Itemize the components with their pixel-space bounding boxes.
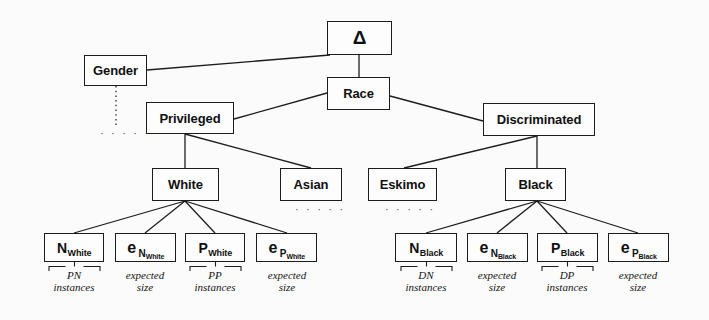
node-discriminated[interactable]: Discriminated [483,103,595,136]
leaf-label-e-n-white: eNWhite [127,240,164,256]
cap-exp-pb-line2: size [593,281,683,293]
leaf-node-e-p-white[interactable]: ePWhite [256,233,317,262]
cap-pn-line1: PN [67,269,81,281]
ellipsis-asian: · · · · · [295,204,345,215]
cap-dn-line1: DN [418,269,433,281]
cap-exp-pw: expectedsize [242,269,332,293]
node-label-white: White [168,178,203,191]
edge-privileged-asian [185,134,311,168]
leaf-label-e-p-white: ePWhite [269,240,305,256]
leaf-label-e-p-black: ePBlack [621,240,657,256]
leaf-label-n-black: NBlack [409,241,443,255]
edge-black-enblack [497,201,537,233]
cap-exp-pb: expectedsize [593,269,683,293]
ellipsis-eskimo: · · · · · [385,204,435,215]
concept-hierarchy-diagram: ΔGenderRacePrivilegedDiscriminatedWhiteA… [0,0,709,320]
leaf-subscript-text-e-p-black: P [632,248,639,259]
node-label-delta: Δ [353,28,367,47]
leaf-subscript-e-n-black: NBlack [491,249,516,259]
node-race[interactable]: Race [327,77,390,110]
node-label-privileged: Privileged [159,112,220,125]
leaf-node-p-white[interactable]: PWhite [185,233,245,262]
leaf-base-p-white: P [198,241,207,255]
leaf-subscript-text-n-white: White [68,248,92,258]
leaf-node-e-p-black[interactable]: ePBlack [608,233,669,262]
cap-exp-nw-line1: expected [126,269,164,281]
leaf-base-e-n-white: e [127,240,136,256]
node-label-discriminated: Discriminated [497,113,582,126]
edge-white-enwhite [145,201,185,233]
leaf-node-e-n-black[interactable]: eNBlack [467,233,528,262]
leaf-node-n-white[interactable]: NWhite [44,233,104,262]
cap-exp-pw-line2: size [242,281,332,293]
cap-exp-pw-line1: expected [268,269,306,281]
leaf-subscript-e-p-white: PWhite [280,249,305,259]
edge-delta-gender [147,55,330,70]
leaf-subscript-text-e-n-black: N [491,248,498,259]
leaf-base-e-p-white: e [269,240,278,256]
node-label-race: Race [343,87,374,100]
leaf-label-e-n-black: eNBlack [479,240,515,256]
leaf-subsubscript-e-p-black: Black [639,253,657,260]
leaf-node-n-black[interactable]: NBlack [395,233,457,262]
ellipsis-gender: · · · · · [100,128,150,139]
node-label-gender: Gender [93,64,138,77]
leaf-base-p-black: P [551,241,560,255]
leaf-subscript-text-p-black: Black [561,248,585,258]
node-asian[interactable]: Asian [280,168,342,201]
leaf-base-n-black: N [409,241,419,255]
edge-black-nblack [426,201,537,233]
leaf-subscript-text-e-n-white: N [139,248,146,259]
edge-white-nwhite [74,201,185,233]
leaf-subscript-p-white: White [208,249,232,258]
leaf-base-n-white: N [57,241,67,255]
edge-race-privileged [234,93,327,119]
leaf-subsubscript-e-p-white: White [286,253,305,260]
leaf-base-e-n-black: e [479,240,488,256]
cap-pp-line1: PP [208,269,221,281]
leaf-subscript-text-p-white: White [208,248,232,258]
leaf-subsubscript-e-n-black: Black [498,253,516,260]
leaf-base-e-p-black: e [621,240,630,256]
leaf-subscript-p-black: Black [561,249,585,258]
node-privileged[interactable]: Privileged [146,102,234,134]
leaf-subscript-n-black: Black [420,249,444,258]
node-label-black: Black [518,178,552,191]
cap-exp-pb-line1: expected [619,269,657,281]
leaf-subscript-e-p-black: PBlack [632,249,657,259]
edge-race-discriminated [390,96,483,121]
node-white[interactable]: White [152,168,219,201]
leaf-subscript-text-n-black: Black [420,248,444,258]
leaf-node-e-n-white[interactable]: eNWhite [115,233,176,262]
cap-exp-nb-line1: expected [478,269,516,281]
leaf-label-p-black: PBlack [551,241,584,255]
node-label-eskimo: Eskimo [380,178,426,191]
leaf-subscript-n-white: White [68,249,92,258]
node-delta[interactable]: Δ [327,21,392,55]
leaf-node-p-black[interactable]: PBlack [537,233,598,262]
leaf-label-n-white: NWhite [57,241,91,255]
node-black[interactable]: Black [505,168,566,201]
edge-discriminated-eskimo [404,136,537,168]
node-eskimo[interactable]: Eskimo [368,168,437,201]
leaf-subsubscript-e-n-white: White [146,253,165,260]
cap-dp-line1: DP [560,269,575,281]
leaf-label-p-white: PWhite [198,241,231,255]
node-label-asian: Asian [294,178,329,191]
leaf-subscript-e-n-white: NWhite [139,249,165,259]
node-gender[interactable]: Gender [84,55,147,86]
